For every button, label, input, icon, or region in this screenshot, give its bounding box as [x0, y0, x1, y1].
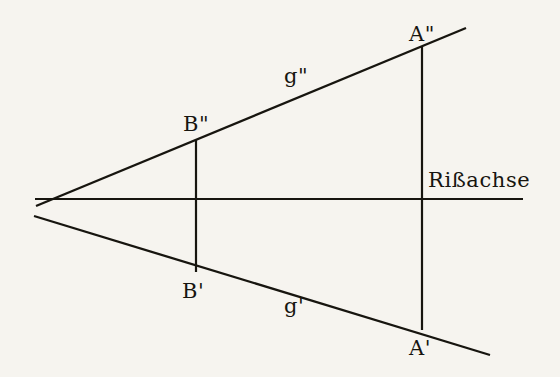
- line-label-g-first: g': [284, 296, 304, 317]
- point-label-a-second: A": [409, 24, 435, 45]
- line-label-g-second: g": [284, 66, 308, 87]
- axis-label-rissachse: Rißachse: [428, 170, 530, 191]
- line-g-second-projection: [36, 28, 466, 206]
- point-label-a-first: A': [409, 338, 431, 359]
- point-label-b-second: B": [183, 114, 209, 135]
- diagram-canvas: A" B" B' A' g" g' Rißachse: [0, 0, 560, 377]
- point-label-b-first: B': [182, 281, 204, 302]
